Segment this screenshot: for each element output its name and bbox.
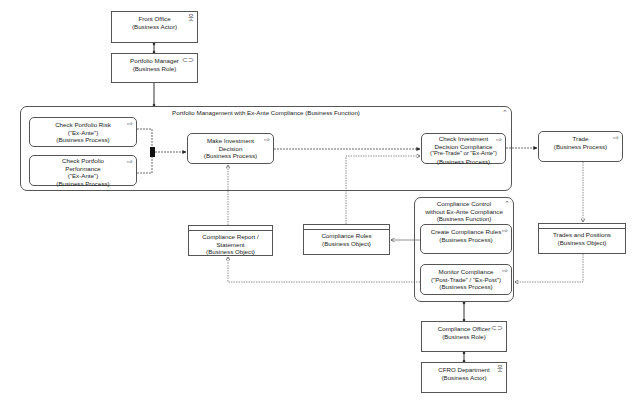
node-subtitle: ("Ex-Ante") bbox=[30, 129, 136, 137]
node-type: (Business Process) bbox=[421, 283, 511, 291]
node-type: (Business Object) bbox=[539, 239, 625, 247]
process-icon: ⇨ bbox=[264, 136, 270, 143]
node-type: (Business Role) bbox=[112, 65, 197, 73]
connections bbox=[0, 0, 642, 404]
node-type: (Business Role) bbox=[422, 333, 506, 341]
node-title-2: without Ex-Ante Compliance bbox=[415, 208, 513, 216]
function-title: Portfolio Management with Ex-Ante Compli… bbox=[21, 109, 511, 117]
node-check-investment-compliance[interactable]: ⇨ Check Investment Decision Compliance (… bbox=[421, 133, 506, 164]
node-title: CFRO Department bbox=[422, 366, 506, 374]
actor-icon: 웃 bbox=[497, 365, 503, 372]
node-compliance-report[interactable]: Compliance Report / Statement (Business … bbox=[188, 225, 273, 256]
node-title: Front Office bbox=[112, 15, 197, 23]
node-type: (Business Object) bbox=[189, 248, 272, 256]
node-title-2: Decision Compliance bbox=[422, 143, 505, 151]
node-portfolio-manager[interactable]: ⊂⊃ Portfolio Manager (Business Role) bbox=[111, 53, 198, 83]
process-icon: ⇨ bbox=[613, 134, 619, 141]
node-type: (Business Actor) bbox=[422, 374, 506, 382]
node-monitor-compliance[interactable]: ⇨ Monitor Compliance ("Post-Trade" / "Ex… bbox=[420, 264, 512, 295]
node-front-office[interactable]: 웃 Front Office (Business Actor) bbox=[111, 11, 198, 43]
node-title: Check Portfolio bbox=[30, 157, 136, 165]
node-type: (Business Actor) bbox=[112, 23, 197, 31]
node-type: (Business Process) bbox=[30, 136, 136, 144]
node-title: Check Investment bbox=[422, 135, 505, 143]
node-make-investment-decision[interactable]: ⇨ Make Investment Decision (Business Pro… bbox=[187, 133, 274, 164]
node-title: Monitor Compliance bbox=[421, 268, 511, 276]
node-compliance-rules[interactable]: Compliance Rules (Business Object) bbox=[303, 224, 390, 255]
node-subtitle: ("Ex-Ante") bbox=[30, 172, 136, 180]
process-icon: ⇨ bbox=[502, 227, 508, 234]
node-type: (Business Object) bbox=[304, 240, 389, 248]
node-type: (Business Function) bbox=[415, 215, 513, 223]
function-icon: ⌃ bbox=[504, 200, 510, 207]
node-type: (Business Process) bbox=[188, 152, 273, 160]
node-title-2: Decision bbox=[188, 145, 273, 153]
node-cfro-department[interactable]: 웃 CFRO Department (Business Actor) bbox=[421, 362, 507, 393]
process-icon: ⇨ bbox=[127, 158, 133, 165]
node-subtitle: ("Post-Trade" / "Ex-Post") bbox=[421, 276, 511, 284]
node-compliance-officer[interactable]: ⊂⊃ Compliance Officer (Business Role) bbox=[421, 321, 507, 352]
node-type: (Business Process) bbox=[421, 236, 511, 244]
process-icon: ⇨ bbox=[496, 136, 502, 143]
node-subtitle: ("Pre-Trade" or "Ex-Ante") bbox=[422, 150, 505, 158]
role-icon: ⊂⊃ bbox=[182, 56, 194, 63]
process-icon: ⇨ bbox=[502, 267, 508, 274]
actor-icon: 웃 bbox=[188, 14, 194, 21]
node-type: (Business Process) bbox=[30, 180, 136, 188]
node-title: Compliance Report / Statement bbox=[189, 233, 272, 248]
node-create-compliance-rules[interactable]: ⇨ Create Compliance Rules (Business Proc… bbox=[420, 224, 512, 254]
node-type: (Business Process) bbox=[539, 143, 622, 151]
node-trades-and-positions[interactable]: Trades and Positions (Business Object) bbox=[538, 223, 626, 254]
node-title: Trade bbox=[539, 135, 622, 143]
process-icon: ⇨ bbox=[127, 120, 133, 127]
node-title: Compliance Rules bbox=[304, 232, 389, 240]
node-title-2: Performance bbox=[30, 165, 136, 173]
node-title: Check Portfolio Risk bbox=[30, 121, 136, 129]
node-trade[interactable]: ⇨ Trade (Business Process) bbox=[538, 131, 623, 162]
node-type: (Business Process) bbox=[422, 158, 505, 166]
node-check-portfolio-performance[interactable]: ⇨ Check Portfolio Performance ("Ex-Ante"… bbox=[29, 155, 137, 186]
node-title: Make Investment bbox=[188, 137, 273, 145]
node-check-portfolio-risk[interactable]: ⇨ Check Portfolio Risk ("Ex-Ante") (Busi… bbox=[29, 117, 137, 147]
node-title: Create Compliance Rules bbox=[421, 228, 511, 236]
node-title: Compliance Control bbox=[415, 200, 513, 208]
node-title: Trades and Positions bbox=[539, 231, 625, 239]
role-icon: ⊂⊃ bbox=[491, 324, 503, 331]
